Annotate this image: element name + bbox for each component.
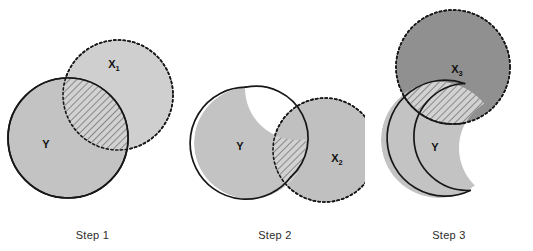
caption-step-1: Step 1 [0, 229, 185, 241]
step-2-diagram: Y X2 [185, 0, 365, 215]
step-3-diagram: X3 Y [365, 0, 533, 215]
step-1-diagram: X1 Y [0, 0, 185, 215]
panel-step-2: Y X2 Step 2 [185, 0, 365, 251]
panel-step-1: X1 Y Step 1 [0, 0, 185, 251]
y-label-step2: Y [236, 140, 244, 152]
y-label-step1: Y [42, 138, 50, 150]
caption-step-2: Step 2 [185, 229, 365, 241]
figure-root: X1 Y Step 1 [0, 0, 533, 251]
y-label-step3: Y [431, 141, 439, 153]
caption-step-3: Step 3 [365, 229, 533, 241]
panel-step-3: X3 Y Step 3 [365, 0, 533, 251]
